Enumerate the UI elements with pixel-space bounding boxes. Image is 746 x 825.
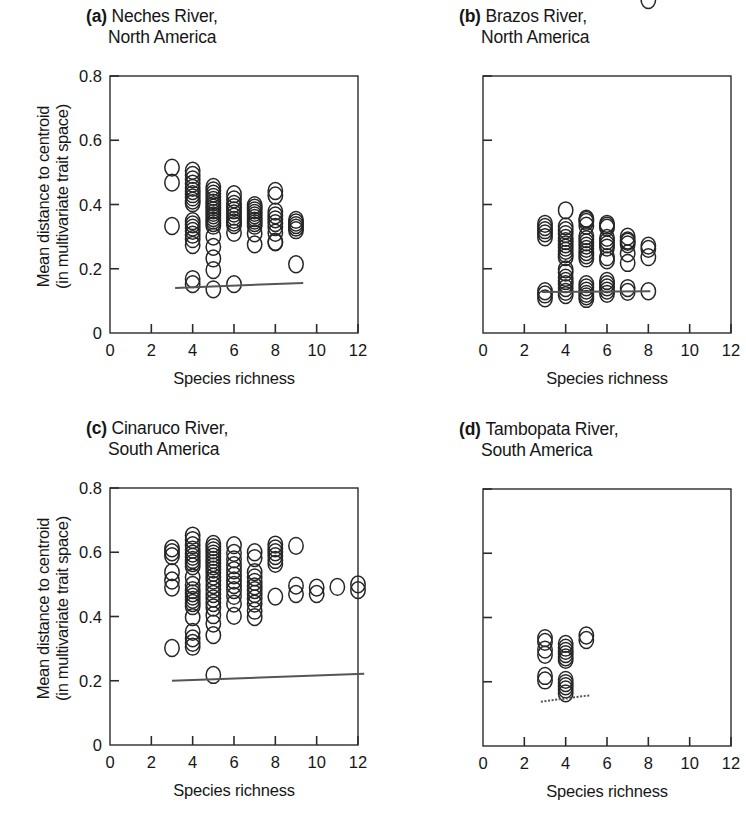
data-point (579, 632, 593, 649)
plot-frame (483, 489, 731, 746)
x-tick-label: 4 (561, 754, 570, 772)
x-tick-label: 6 (229, 341, 238, 359)
data-point (538, 668, 552, 685)
y-axis-label: Mean distance to centroid(in multivariat… (34, 64, 72, 329)
x-axis-ticks: 024681012 (478, 737, 740, 772)
x-tick-label: 0 (478, 754, 487, 772)
data-point (330, 579, 344, 596)
x-tick-label: 10 (307, 341, 325, 359)
data-point (289, 537, 303, 554)
data-point (165, 159, 179, 176)
x-axis-ticks: 024681012 (105, 736, 367, 771)
x-tick-label: 0 (478, 341, 487, 359)
y-tick-label: 0.4 (79, 196, 102, 214)
x-tick-label: 12 (722, 341, 740, 359)
x-tick-label: 4 (561, 341, 570, 359)
x-tick-label: 0 (105, 753, 114, 771)
x-axis-label: Species richness (110, 781, 358, 800)
y-axis-ticks: 00.20.40.60.8 (79, 67, 119, 342)
panel-d-plot: 024681012 (373, 413, 746, 825)
trend-line (172, 674, 364, 681)
data-point (206, 228, 220, 245)
x-tick-label: 6 (229, 753, 238, 771)
x-tick-label: 2 (147, 341, 156, 359)
x-tick-label: 12 (722, 754, 740, 772)
y-tick-label: 0.6 (79, 131, 102, 149)
data-point (558, 202, 572, 219)
x-tick-label: 12 (349, 341, 367, 359)
y-axis-label: Mean distance to centroid(in multivariat… (34, 476, 72, 741)
x-tick-label: 0 (105, 341, 114, 359)
data-point (620, 255, 634, 272)
y-tick-label: 0.8 (79, 67, 102, 85)
x-tick-label: 10 (680, 754, 698, 772)
trend-line (175, 283, 303, 288)
data-point (227, 607, 241, 624)
plot-frame (110, 488, 358, 745)
x-tick-label: 2 (520, 754, 529, 772)
data-point (289, 256, 303, 273)
y-tick-label: 0.4 (79, 608, 102, 626)
data-point (165, 640, 179, 657)
x-axis-label: Species richness (110, 369, 358, 388)
panel-c: (c) Cinaruco River,South America00.20.40… (0, 412, 373, 824)
y-tick-label: 0.6 (79, 543, 102, 561)
trend-line (542, 291, 651, 292)
data-points (538, 627, 594, 702)
data-point (206, 281, 220, 298)
plot-frame (483, 76, 731, 333)
y-axis-ticks (483, 489, 492, 682)
y-axis-ticks (483, 76, 492, 269)
y-axis-label-line1: Mean distance to centroid (34, 64, 53, 329)
x-tick-label: 4 (188, 753, 197, 771)
y-axis-label-line2: (in multivariate trait space) (53, 476, 72, 741)
data-points (165, 527, 365, 683)
y-axis-label-line1: Mean distance to centroid (34, 476, 53, 741)
data-point (268, 234, 282, 251)
data-points (165, 159, 303, 298)
x-tick-label: 6 (602, 341, 611, 359)
y-axis-ticks: 00.20.40.60.8 (79, 479, 119, 754)
data-point (620, 280, 634, 297)
x-tick-label: 8 (271, 341, 280, 359)
data-point (538, 672, 552, 689)
x-tick-label: 12 (349, 753, 367, 771)
x-axis-label: Species richness (483, 369, 731, 388)
data-point (165, 218, 179, 235)
panel-a: (a) Neches River,North America00.20.40.6… (0, 0, 373, 412)
data-point (185, 634, 199, 651)
x-axis-ticks: 024681012 (478, 324, 740, 359)
x-tick-label: 8 (644, 341, 653, 359)
panel-b-plot: 024681012 (373, 0, 746, 412)
x-axis-label: Species richness (483, 782, 731, 801)
panel-b: (b) Brazos River,North America024681012S… (373, 0, 746, 412)
x-tick-label: 8 (644, 754, 653, 772)
y-axis-label-line2: (in multivariate trait space) (53, 64, 72, 329)
x-tick-label: 10 (307, 753, 325, 771)
data-point (206, 627, 220, 644)
x-tick-label: 2 (520, 341, 529, 359)
data-point (227, 276, 241, 293)
x-tick-label: 2 (147, 753, 156, 771)
data-point (165, 544, 179, 561)
x-tick-label: 10 (680, 341, 698, 359)
data-point (641, 0, 655, 8)
x-tick-label: 6 (602, 754, 611, 772)
data-point (206, 262, 220, 279)
panel-d: (d) Tambopata River,South America0246810… (373, 413, 746, 825)
data-point (268, 187, 282, 204)
figure-panel-grid: (a) Neches River,North America00.20.40.6… (0, 0, 746, 825)
x-axis-ticks: 024681012 (105, 324, 367, 359)
data-point (165, 174, 179, 191)
data-point (268, 588, 282, 605)
y-tick-label: 0.8 (79, 479, 102, 497)
y-tick-label: 0 (93, 324, 102, 342)
x-tick-label: 8 (271, 753, 280, 771)
y-tick-label: 0.2 (79, 260, 102, 278)
data-points (538, 0, 656, 307)
data-point (206, 667, 220, 684)
y-tick-label: 0.2 (79, 672, 102, 690)
data-point (579, 627, 593, 644)
y-tick-label: 0 (93, 736, 102, 754)
data-point (268, 183, 282, 200)
